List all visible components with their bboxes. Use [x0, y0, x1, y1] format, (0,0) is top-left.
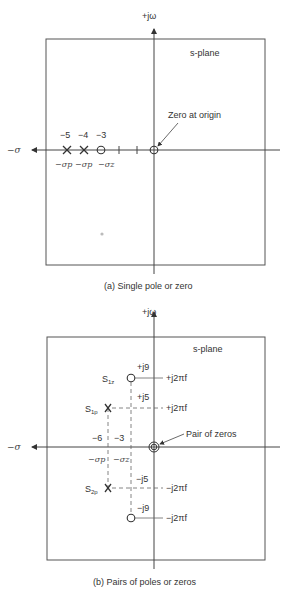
zero-marker-s2z: [127, 514, 135, 522]
zero-marker-s1z: [127, 374, 135, 382]
caption-a: (a) Single pole or zero: [104, 281, 193, 291]
zero-at-origin-annotation: Zero at origin: [168, 110, 221, 120]
panel-b: +jω −σ s-plane S1z S1: [7, 307, 280, 587]
freq-label: +j2πf: [166, 373, 187, 383]
value-label: −4: [78, 130, 88, 140]
sigma-p-label: −σp: [55, 160, 72, 169]
s-plane-frame: [46, 39, 265, 265]
sigma-z-label: −σz: [98, 160, 115, 169]
annotation-arrow: [160, 434, 184, 444]
smudge: [100, 232, 103, 235]
s-plane-label: s-plane: [190, 48, 220, 58]
pos-j9-label: +j9: [137, 362, 149, 372]
sigma-p-label: −σp: [75, 160, 92, 169]
sigma-z-label: −σz: [113, 455, 130, 464]
s1p-label: S1p: [85, 404, 98, 415]
s1z-label: S1z: [102, 374, 114, 385]
panel-a: +jω −σ s-plane −5 −4 −3 −σp −σp −σz Zero…: [7, 11, 280, 291]
neg-j9-label: −j9: [137, 503, 149, 513]
annotation-arrow: [158, 123, 178, 146]
guide-lines: [108, 382, 163, 514]
jw-axis-label: +jω: [142, 307, 156, 317]
sigma-z-value: −3: [114, 433, 124, 443]
freq-label: −j2πf: [166, 483, 187, 493]
sigma-axis-label: −σ: [7, 145, 22, 155]
sigma-p-value: −6: [92, 433, 102, 443]
caption-b: (b) Pairs of poles or zeros: [93, 577, 197, 587]
s-plane-label: s-plane: [193, 344, 223, 354]
jw-axis-label: +jω: [142, 11, 156, 21]
pair-of-zeros-annotation: Pair of zeros: [186, 429, 237, 439]
neg-j5-label: −j5: [136, 474, 148, 484]
pole-zero-diagrams: +jω −σ s-plane −5 −4 −3 −σp −σp −σz Zero…: [0, 0, 286, 592]
freq-label: −j2πf: [166, 513, 187, 523]
freq-label: +j2πf: [166, 403, 187, 413]
s2p-label: S2p: [85, 484, 98, 495]
value-label: −5: [60, 130, 70, 140]
pos-j5-label: +j5: [137, 392, 149, 402]
value-label: −3: [96, 130, 106, 140]
sigma-p-label: −σp: [88, 455, 105, 464]
sigma-axis-label: −σ: [7, 442, 22, 452]
